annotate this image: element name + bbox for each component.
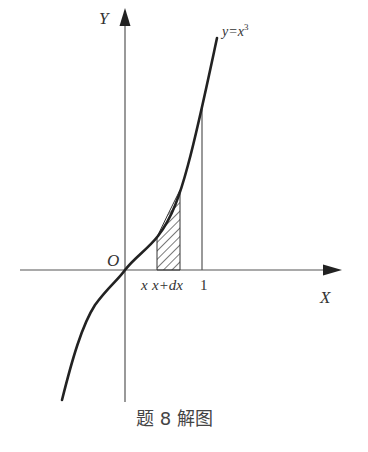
origin-label: O xyxy=(107,251,119,270)
y-axis-arrow-icon xyxy=(120,8,131,26)
x-axis xyxy=(20,265,342,276)
y-axis-label: Y xyxy=(99,9,110,28)
curve-label-exponent: 3 xyxy=(244,22,249,32)
tick-label-x: x xyxy=(140,277,148,293)
figure-caption: 题 8 解图 xyxy=(136,408,213,429)
cubic-curve xyxy=(62,38,217,400)
x-axis-label: X xyxy=(319,288,331,307)
y-axis xyxy=(120,8,131,402)
tick-label-x-plus-dx: x+dx xyxy=(151,277,183,293)
tick-label-one: 1 xyxy=(200,277,208,293)
x-axis-arrow-icon xyxy=(323,265,342,276)
cubic-area-diagram: Y X O y=x3 x x+dx 1 题 8 解图 xyxy=(0,0,368,452)
curve-label: y=x3 xyxy=(220,22,249,39)
